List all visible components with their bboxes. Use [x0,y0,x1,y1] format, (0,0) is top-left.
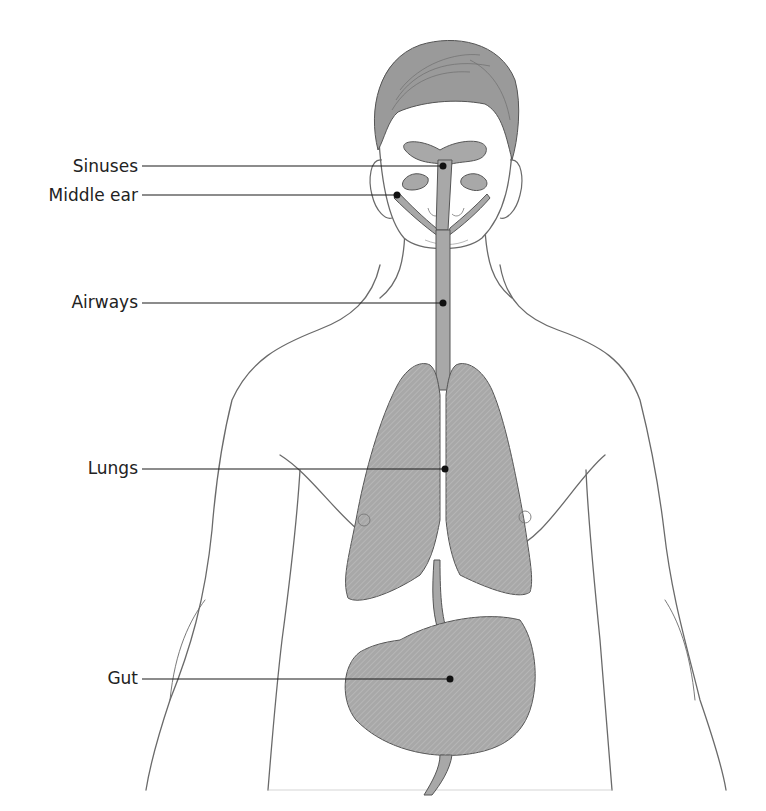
anatomy-figure [0,0,766,811]
dot-sinuses [440,163,447,170]
dot-gut [447,676,454,683]
label-lungs: Lungs [88,458,138,478]
label-sinuses: Sinuses [73,156,138,176]
label-airways: Airways [71,292,138,312]
label-gut: Gut [107,668,138,688]
label-middle-ear: Middle ear [49,185,138,205]
dot-lungs [442,466,449,473]
dot-airways [440,300,447,307]
dot-middle-ear [394,192,401,199]
airways-shape [436,230,450,390]
